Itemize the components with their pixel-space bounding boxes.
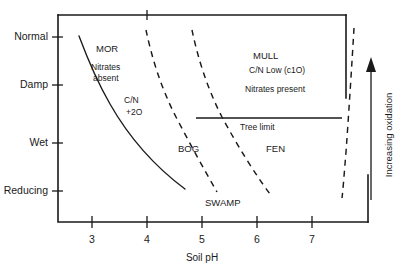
x-axis-labels: 3 4 5 6 7 bbox=[89, 233, 315, 245]
annotation-cn-label: C/N bbox=[124, 95, 139, 105]
annotation-cn-value: +2O bbox=[126, 107, 143, 117]
secondary-axis-label: Increasing oxidation bbox=[383, 93, 394, 178]
annotation-fen: FEN bbox=[266, 143, 285, 154]
x-tick-label-4: 4 bbox=[144, 233, 150, 245]
figure-root: Normal Damp Wet Reducing 3 4 5 6 7 Soil … bbox=[0, 0, 402, 268]
y-tick-label-damp: Damp bbox=[20, 78, 48, 90]
y-tick-label-reducing: Reducing bbox=[4, 184, 49, 196]
annotation-cn-low: C/N Low (c1O) bbox=[249, 65, 305, 75]
series-bog-inner-dashed bbox=[146, 30, 217, 192]
x-tick-label-3: 3 bbox=[89, 233, 95, 245]
y-tick-label-normal: Normal bbox=[14, 30, 48, 42]
annotation-swamp: SWAMP bbox=[205, 197, 241, 208]
annotation-bog: BOG bbox=[178, 143, 199, 154]
soil-ph-humus-diagram: Normal Damp Wet Reducing 3 4 5 6 7 Soil … bbox=[0, 0, 402, 268]
x-tick-label-5: 5 bbox=[199, 233, 205, 245]
annotation-tree-limit-label: Tree limit bbox=[240, 122, 275, 132]
y-tick-label-wet: Wet bbox=[30, 136, 49, 148]
x-tick-label-6: 6 bbox=[254, 233, 260, 245]
x-tick-label-7: 7 bbox=[309, 233, 315, 245]
x-axis-title: Soil pH bbox=[186, 252, 218, 263]
arrow-up-icon bbox=[366, 57, 376, 72]
annotation-nitrates-present: Nitrates present bbox=[245, 84, 306, 94]
annotation-mull: MULL bbox=[253, 50, 278, 61]
y-axis-labels: Normal Damp Wet Reducing bbox=[4, 30, 49, 196]
series-fen-right-dashed bbox=[342, 28, 354, 198]
annotation-mor: MOR bbox=[96, 43, 118, 54]
annotation-nitrates-absent-line2: absent bbox=[93, 73, 119, 83]
x-axis-ticks bbox=[92, 10, 312, 228]
annotation-nitrates-absent-line1: Nitrates bbox=[91, 62, 120, 72]
